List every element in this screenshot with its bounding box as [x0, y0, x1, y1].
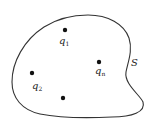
- charge-q1-dot: [63, 28, 67, 32]
- closed-surface-outline: [12, 15, 143, 118]
- charge-q2-dot: [30, 71, 34, 75]
- charge-qn-dot: [97, 60, 101, 64]
- gaussian-surface-diagram: q1 qn q2 S: [0, 0, 152, 124]
- charge-unlabeled-dot: [61, 96, 65, 100]
- surface-label: S: [131, 57, 138, 68]
- charge-qn-label: qn: [95, 65, 105, 77]
- charge-q2-label: q2: [32, 80, 42, 92]
- charge-q1-label: q1: [59, 35, 69, 47]
